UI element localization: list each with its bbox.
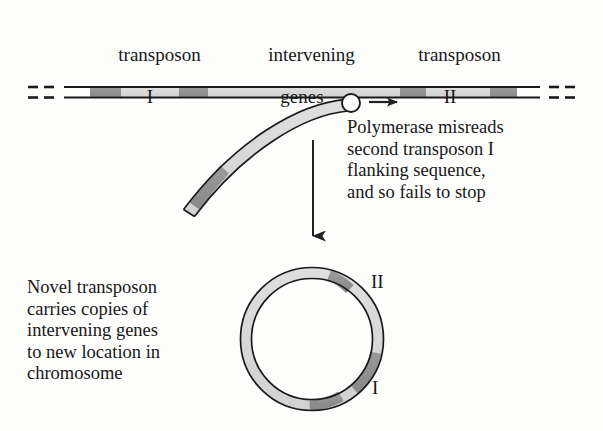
circular-transposon-group [241, 268, 384, 411]
header-transposon-II-line2: II [380, 87, 520, 106]
circle-label-II: II [371, 272, 384, 291]
header-intervening-genes-line1: intervening [268, 44, 355, 65]
annotation-polymerase-misreads: Polymerase misreads second transposon I … [347, 117, 597, 203]
transposon-diagram-figure: transposon I intervening genes transposo… [0, 0, 603, 431]
circular-transposon-outline-inner [252, 279, 373, 400]
annotation-novel-transposon: Novel transposon carries copies of inter… [27, 277, 227, 385]
circular-transposon-outline-outer [241, 268, 384, 411]
header-transposon-I-line1: transposon [118, 44, 200, 65]
peeling-strand-dark-band [195, 170, 225, 207]
header-transposon-II-line1: transposon [418, 44, 500, 65]
header-transposon-I-line2: I [80, 87, 220, 106]
chromosome-dashes-right [549, 87, 575, 98]
header-transposon-I: transposon I [80, 26, 220, 144]
chromosome-dashes-left [28, 87, 54, 98]
circle-label-I: I [372, 378, 378, 397]
header-intervening-genes-line2: genes [232, 87, 372, 106]
